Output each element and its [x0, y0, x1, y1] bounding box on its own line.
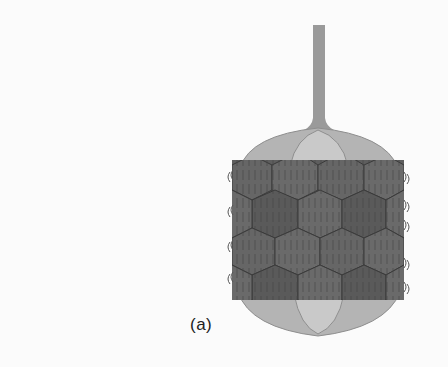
tail: [304, 25, 334, 130]
capsid-diagram: [0, 0, 448, 367]
panel-label: (a): [190, 315, 212, 335]
hexagon-lattice: [212, 152, 424, 310]
